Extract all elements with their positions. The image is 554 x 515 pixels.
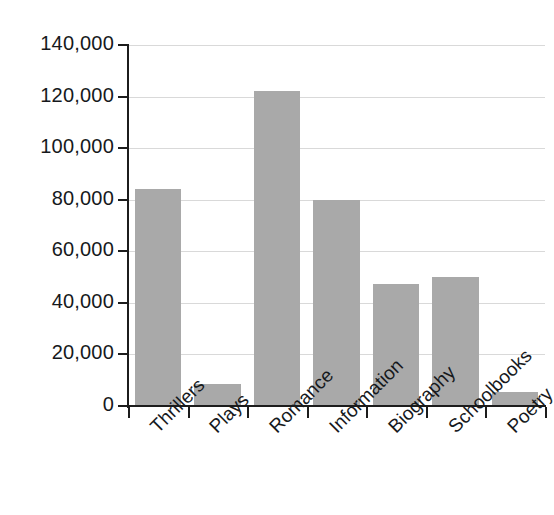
y-axis-tick-label: 120,000 bbox=[4, 84, 114, 107]
y-axis-tick-label: 140,000 bbox=[4, 32, 114, 55]
y-axis-tick bbox=[118, 147, 129, 149]
y-axis-tick-label: 100,000 bbox=[4, 135, 114, 158]
y-axis-tick bbox=[118, 44, 129, 46]
y-axis-tick bbox=[118, 250, 129, 252]
x-axis-tick bbox=[128, 407, 130, 418]
bar bbox=[254, 91, 300, 406]
y-axis-tick-label: 80,000 bbox=[4, 187, 114, 210]
y-axis-tick bbox=[118, 199, 129, 201]
y-axis-tick bbox=[118, 353, 129, 355]
bar bbox=[135, 189, 181, 406]
bars-group bbox=[128, 45, 545, 406]
bar-chart: 020,00040,00060,00080,000100,000120,0001… bbox=[0, 0, 554, 515]
y-axis-tick-label: 20,000 bbox=[4, 341, 114, 364]
y-axis-tick-label: 60,000 bbox=[4, 238, 114, 261]
y-axis-tick-label: 0 bbox=[4, 393, 114, 416]
y-axis-tick bbox=[118, 96, 129, 98]
y-axis-tick bbox=[118, 302, 129, 304]
y-axis-tick-label: 40,000 bbox=[4, 290, 114, 313]
